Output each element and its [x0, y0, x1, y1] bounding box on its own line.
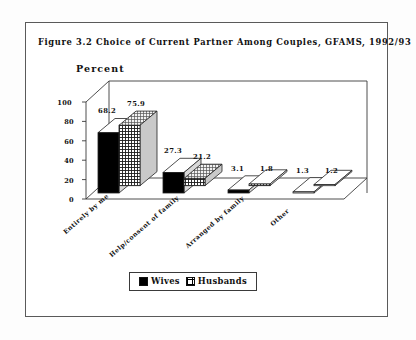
y-tick-40: 40	[56, 157, 74, 165]
value-label-wives-other: 1.3	[296, 167, 309, 175]
y-tick-100: 100	[54, 99, 72, 107]
legend-entry-husbands: Husbands	[186, 276, 247, 286]
value-label-wives-help-consent-of-family: 27.3	[164, 147, 182, 155]
value-label-wives-entirely-by-me: 68.2	[98, 107, 116, 115]
crosshatch-swatch-icon	[186, 277, 195, 286]
legend-label-husbands: Husbands	[198, 276, 247, 286]
bar-group-help-consent-of-family	[163, 158, 222, 193]
value-label-husbands-help-consent-of-family: 21.2	[193, 153, 211, 161]
y-tick-80: 80	[56, 118, 74, 126]
y-tick-60: 60	[56, 138, 74, 146]
value-label-husbands-entirely-by-me: 75.9	[127, 100, 145, 108]
solid-black-swatch-icon	[139, 277, 148, 286]
value-label-husbands-arranged-by-family: 1.8	[260, 165, 273, 173]
value-label-wives-arranged-by-family: 3.1	[231, 165, 244, 173]
value-label-husbands-other: 1.2	[325, 167, 338, 175]
bar-husbands-entirely-by-me	[119, 111, 157, 186]
y-axis-ticks	[82, 102, 86, 199]
y-tick-20: 20	[56, 177, 74, 185]
legend-entry-wives: Wives	[139, 276, 180, 286]
chart-legend: Wives Husbands	[129, 272, 257, 291]
y-tick-0: 0	[56, 196, 74, 204]
figure-frame: Figure 3.2 Choice of Current Partner Amo…	[25, 22, 388, 317]
legend-label-wives: Wives	[151, 276, 180, 286]
